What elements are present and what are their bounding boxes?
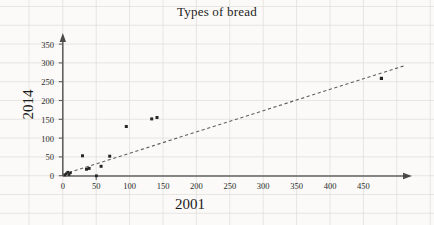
x-tick-label-350: 350: [285, 181, 309, 191]
y-axis: [60, 33, 66, 176]
x-axis: [63, 173, 412, 179]
x-tick-label-100: 100: [118, 181, 142, 191]
chart-screenshot: Types of bread: [0, 0, 434, 225]
y-tick-label-350: 350: [30, 40, 54, 50]
y-tick-label-100: 100: [30, 134, 54, 144]
data-points: [64, 77, 384, 177]
data-point: [100, 165, 103, 168]
x-tick-label-0: 0: [51, 181, 75, 191]
scatter-plot: [0, 0, 434, 225]
y-tick-label-0: 0: [30, 171, 54, 181]
data-point: [66, 171, 69, 174]
x-tick-label-200: 200: [184, 181, 208, 191]
data-point: [81, 154, 84, 157]
data-point: [95, 174, 98, 177]
y-axis-title: 2014: [20, 75, 37, 135]
x-tick-label-250: 250: [218, 181, 242, 191]
y-tick-label-300: 300: [30, 58, 54, 68]
x-axis-title: 2001: [175, 196, 205, 213]
x-tick-label-50: 50: [84, 181, 108, 191]
data-point: [108, 155, 111, 158]
data-point: [125, 125, 128, 128]
data-point: [85, 168, 88, 171]
data-point: [150, 117, 153, 120]
x-tick-label-450: 450: [351, 181, 375, 191]
data-point: [69, 172, 72, 175]
data-point: [380, 77, 383, 80]
x-tick-label-300: 300: [251, 181, 275, 191]
y-tick-label-50: 50: [30, 152, 54, 162]
data-point: [156, 116, 159, 119]
data-point: [88, 167, 91, 170]
trendline: [64, 66, 405, 175]
x-tick-label-150: 150: [151, 181, 175, 191]
x-tick-label-400: 400: [318, 181, 342, 191]
